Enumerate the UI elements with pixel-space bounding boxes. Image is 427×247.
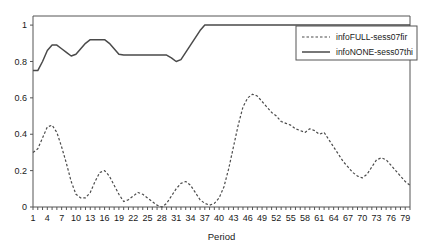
x-tick-label: 64 <box>329 213 339 223</box>
x-tick-label: 16 <box>100 213 110 223</box>
x-tick-label: 34 <box>185 213 195 223</box>
x-tick-label: 37 <box>200 213 210 223</box>
x-tick-label: 19 <box>114 213 124 223</box>
x-tick-label: 40 <box>214 213 224 223</box>
x-tick-label: 28 <box>157 213 167 223</box>
y-axis-tick-labels: 00.20.40.60.81 <box>14 20 27 212</box>
x-axis-tick-labels: 1471013161922252831343740434649525558616… <box>30 213 410 223</box>
chart-container: 1471013161922252831343740434649525558616… <box>0 0 427 247</box>
x-tick-label: 1 <box>30 213 35 223</box>
legend-label: infoNONE-sess07thi <box>336 47 413 57</box>
x-tick-label: 61 <box>314 213 324 223</box>
x-tick-label: 55 <box>286 213 296 223</box>
x-tick-label: 10 <box>71 213 81 223</box>
series-line-1 <box>33 94 410 207</box>
y-tick-label: 0.8 <box>14 57 27 67</box>
x-tick-label: 49 <box>257 213 267 223</box>
y-tick-label: 1 <box>22 20 27 30</box>
x-axis-title: Period <box>208 231 235 242</box>
x-tick-label: 46 <box>243 213 253 223</box>
x-tick-label: 22 <box>128 213 138 223</box>
line-chart: 1471013161922252831343740434649525558616… <box>0 0 427 247</box>
x-tick-label: 76 <box>386 213 396 223</box>
x-tick-label: 43 <box>228 213 238 223</box>
x-tick-label: 4 <box>45 213 50 223</box>
x-tick-label: 73 <box>372 213 382 223</box>
x-tick-label: 79 <box>400 213 410 223</box>
y-tick-label: 0.6 <box>14 93 27 103</box>
y-tick-label: 0.2 <box>14 166 27 176</box>
x-tick-label: 25 <box>143 213 153 223</box>
x-tick-label: 13 <box>85 213 95 223</box>
chart-legend: infoFULL-sess07firinfoNONE-sess07thi <box>296 26 417 60</box>
x-tick-label: 70 <box>357 213 367 223</box>
y-tick-label: 0.4 <box>14 129 27 139</box>
legend-label: infoFULL-sess07fir <box>336 32 408 42</box>
x-tick-label: 52 <box>271 213 281 223</box>
x-tick-label: 7 <box>59 213 64 223</box>
x-tick-label: 58 <box>300 213 310 223</box>
x-tick-label: 31 <box>171 213 181 223</box>
y-tick-label: 0 <box>22 202 27 212</box>
x-tick-label: 67 <box>343 213 353 223</box>
